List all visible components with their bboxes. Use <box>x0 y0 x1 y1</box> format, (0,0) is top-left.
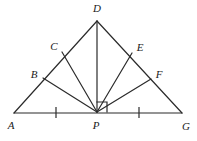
vertex-label-A: A <box>8 120 15 131</box>
vertex-label-F: F <box>156 69 163 80</box>
side-AD <box>14 21 97 113</box>
cevian-PE <box>97 53 132 112</box>
vertex-label-P: P <box>93 120 100 131</box>
vertex-label-E: E <box>137 42 144 53</box>
side-DG <box>97 21 182 113</box>
vertex-label-C: C <box>50 41 57 52</box>
cevian-PF <box>97 79 151 112</box>
geometry-diagram: A B C D E F G P <box>0 0 197 141</box>
vertex-label-D: D <box>93 3 101 14</box>
cevian-PC <box>62 52 97 112</box>
vertex-label-B: B <box>31 69 38 80</box>
vertex-label-G: G <box>182 121 190 132</box>
cevian-PB <box>43 78 97 112</box>
